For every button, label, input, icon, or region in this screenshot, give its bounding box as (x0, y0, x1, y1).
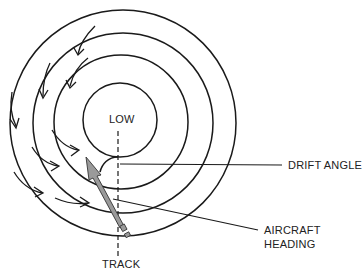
aircraft-heading-label-line2: HEADING (264, 238, 316, 251)
drift-angle-arc (100, 157, 118, 172)
drift-angle-label: DRIFT ANGLE (288, 159, 362, 172)
low-label: LOW (109, 113, 135, 126)
heading-leader (113, 199, 258, 230)
aircraft-heading-label-line1: AIRCRAFT (264, 224, 321, 237)
track-label: TRACK (102, 258, 140, 271)
aircraft-heading-arrow (86, 157, 131, 238)
drift-angle-leader (120, 164, 282, 165)
